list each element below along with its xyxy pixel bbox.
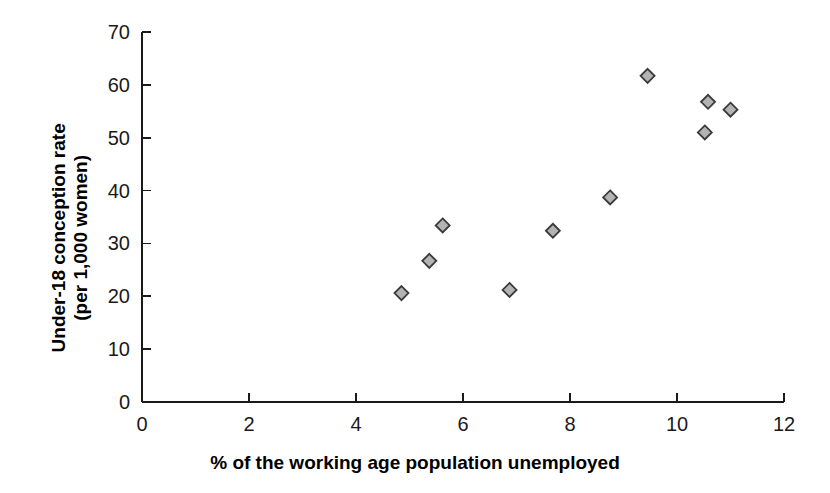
- x-tick-label: 8: [564, 414, 575, 434]
- y-axis-title-line-1: Under-18 conception rate: [48, 38, 70, 438]
- data-point-marker: [698, 125, 712, 139]
- x-tick-label: 10: [666, 414, 688, 434]
- data-point-marker: [603, 190, 617, 204]
- data-point-marker: [422, 254, 436, 268]
- data-points: [394, 69, 737, 300]
- x-tick-label: 2: [243, 414, 254, 434]
- x-axis-title: % of the working age population unemploy…: [0, 452, 830, 474]
- data-point-marker: [436, 218, 450, 232]
- data-point-marker: [546, 224, 560, 238]
- x-tick-label: 0: [136, 414, 147, 434]
- x-tick-label: 4: [350, 414, 361, 434]
- data-point-marker: [394, 286, 408, 300]
- data-point-marker: [503, 283, 517, 297]
- data-point-marker: [701, 95, 715, 109]
- scatter-chart: 010203040506070 024681012 % of the worki…: [0, 0, 830, 493]
- x-tick-label: 12: [773, 414, 795, 434]
- y-axis-title: Under-18 conception rate (per 1,000 wome…: [48, 38, 92, 438]
- data-point-marker: [724, 103, 738, 117]
- x-tick-label: 6: [457, 414, 468, 434]
- data-point-marker: [641, 69, 655, 83]
- y-axis-title-line-2: (per 1,000 women): [70, 38, 92, 438]
- axes: [142, 32, 784, 402]
